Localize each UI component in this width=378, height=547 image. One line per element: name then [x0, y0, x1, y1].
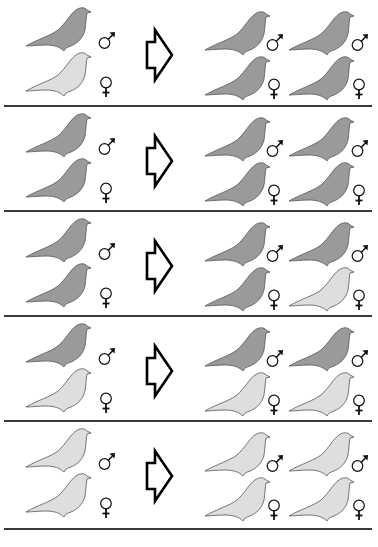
arrow-right-icon [145, 238, 175, 294]
male-symbol-icon [98, 345, 116, 367]
offspring-male-bird [287, 326, 355, 372]
male-symbol-icon [351, 137, 369, 159]
offspring-female-bird [287, 55, 355, 101]
row-separator [4, 210, 372, 212]
female-symbol-icon [98, 182, 116, 204]
female-symbol-icon [98, 392, 116, 414]
offspring-male-bird [203, 10, 271, 56]
offspring-male-bird [203, 116, 271, 162]
arrow-right-icon [145, 133, 175, 189]
cross-row-2 [0, 106, 378, 211]
parent-female-bird [24, 51, 92, 97]
offspring-female-bird [287, 476, 355, 522]
female-symbol-icon [98, 287, 116, 309]
offspring-male-bird [287, 221, 355, 267]
row-separator [4, 528, 372, 530]
male-symbol-icon [266, 347, 284, 369]
male-symbol-icon [266, 242, 284, 264]
offspring-female-bird [287, 161, 355, 207]
offspring-female-bird [287, 266, 355, 312]
row-separator [4, 315, 372, 317]
cross-row-5 [0, 421, 378, 526]
cross-row-1 [0, 0, 378, 105]
male-symbol-icon [266, 452, 284, 474]
male-symbol-icon [98, 450, 116, 472]
male-symbol-icon [98, 240, 116, 262]
arrow-right-icon [145, 27, 175, 83]
female-symbol-icon [266, 394, 284, 416]
parent-male-bird [24, 427, 92, 473]
arrow-right-icon [145, 448, 175, 504]
offspring-male-bird [287, 10, 355, 56]
female-symbol-icon [266, 78, 284, 100]
male-symbol-icon [98, 135, 116, 157]
parent-male-bird [24, 112, 92, 158]
male-symbol-icon [351, 347, 369, 369]
offspring-female-bird [203, 55, 271, 101]
female-symbol-icon [98, 497, 116, 519]
male-symbol-icon [266, 137, 284, 159]
male-symbol-icon [351, 452, 369, 474]
female-symbol-icon [266, 184, 284, 206]
offspring-female-bird [203, 476, 271, 522]
parent-male-bird [24, 217, 92, 263]
female-symbol-icon [351, 78, 369, 100]
male-symbol-icon [351, 242, 369, 264]
female-symbol-icon [351, 289, 369, 311]
female-symbol-icon [351, 394, 369, 416]
offspring-female-bird [203, 266, 271, 312]
arrow-right-icon [145, 343, 175, 399]
female-symbol-icon [266, 289, 284, 311]
male-symbol-icon [266, 31, 284, 53]
offspring-female-bird [203, 161, 271, 207]
row-separator [4, 105, 372, 107]
offspring-female-bird [287, 371, 355, 417]
offspring-male-bird [203, 431, 271, 477]
female-symbol-icon [351, 499, 369, 521]
cross-row-4 [0, 316, 378, 421]
female-symbol-icon [98, 76, 116, 98]
parent-female-bird [24, 367, 92, 413]
offspring-female-bird [203, 371, 271, 417]
row-separator [4, 420, 372, 422]
male-symbol-icon [351, 31, 369, 53]
parent-male-bird [24, 6, 92, 52]
female-symbol-icon [266, 499, 284, 521]
male-symbol-icon [98, 29, 116, 51]
offspring-male-bird [203, 326, 271, 372]
offspring-male-bird [287, 116, 355, 162]
parent-female-bird [24, 157, 92, 203]
cross-row-3 [0, 211, 378, 316]
offspring-male-bird [203, 221, 271, 267]
offspring-male-bird [287, 431, 355, 477]
female-symbol-icon [351, 184, 369, 206]
parent-female-bird [24, 472, 92, 518]
parent-female-bird [24, 262, 92, 308]
parent-male-bird [24, 322, 92, 368]
